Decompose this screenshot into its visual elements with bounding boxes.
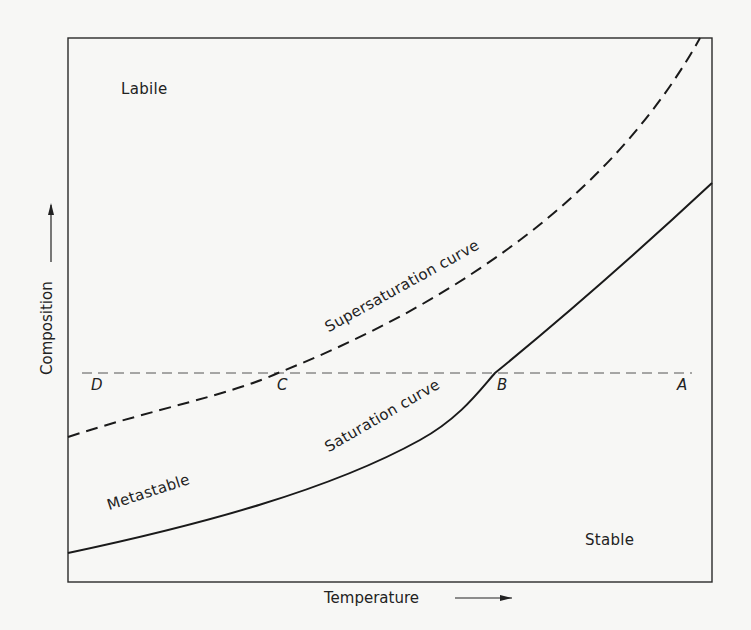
plot-frame xyxy=(68,38,712,582)
right-arrow-icon xyxy=(500,595,512,601)
x-axis-label: Temperature xyxy=(324,591,419,606)
region-stable-label: Stable xyxy=(585,533,634,548)
saturation-curve xyxy=(68,183,712,553)
point-a-label: A xyxy=(677,378,687,393)
point-d-label: D xyxy=(91,378,103,393)
region-labile-label: Labile xyxy=(121,82,167,97)
point-c-label: C xyxy=(277,378,287,393)
crystallization-diagram: Labile Metastable Stable Supersaturation… xyxy=(0,0,751,630)
diagram-canvas xyxy=(0,0,751,630)
point-b-label: B xyxy=(497,378,507,393)
up-arrow-icon xyxy=(48,203,54,215)
y-axis-label: Composition xyxy=(40,281,55,375)
